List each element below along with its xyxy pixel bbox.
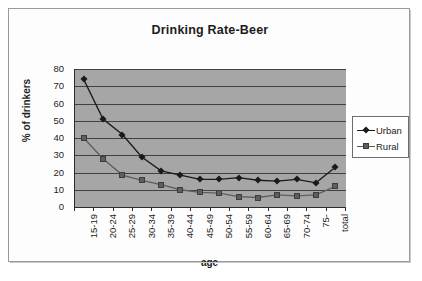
series-line-rural: [84, 138, 336, 198]
legend-label-rural: Rural: [376, 141, 399, 152]
square-marker-icon: [363, 143, 369, 149]
series-line-urban: [84, 79, 336, 183]
chart-legend: Urban Rural: [352, 116, 409, 158]
diamond-marker-icon: [362, 126, 369, 133]
legend-item-urban: Urban: [353, 122, 408, 138]
scanned-page-frame: Drinking Rate-Beer % of drinkers 8070605…: [8, 8, 410, 262]
urban-series-key-icon: [357, 125, 375, 135]
legend-item-rural: Rural: [353, 138, 408, 154]
series-lines: [9, 9, 411, 263]
legend-label-urban: Urban: [376, 125, 402, 136]
rural-series-key-icon: [357, 141, 375, 151]
